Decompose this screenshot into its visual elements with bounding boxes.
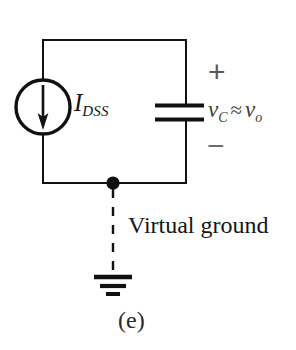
junction-dot <box>106 176 119 189</box>
polarity-plus-label: + <box>208 57 226 87</box>
current-source-label: IDSS <box>74 90 109 119</box>
output-voltage-subscript: o <box>255 110 262 125</box>
virtual-ground-label: Virtual ground <box>128 213 269 237</box>
figure-caption: (e) <box>118 308 145 332</box>
polarity-minus-label: − <box>207 131 225 161</box>
current-source-symbol <box>16 80 70 134</box>
current-source-label-subscript: DSS <box>82 103 108 119</box>
circuit-figure: IDSS + − vC≈vo Virtual ground (e) <box>0 0 296 350</box>
capacitor-voltage-main: v <box>208 97 218 122</box>
capacitor-symbol <box>155 106 204 120</box>
earth-ground-symbol <box>94 277 132 294</box>
output-voltage-main: v <box>245 97 255 122</box>
capacitor-voltage-label: vC≈vo <box>208 98 262 125</box>
circuit-schematic <box>0 0 296 350</box>
approx-equal-icon: ≈ <box>228 98 246 122</box>
capacitor-voltage-subscript: C <box>218 110 227 125</box>
